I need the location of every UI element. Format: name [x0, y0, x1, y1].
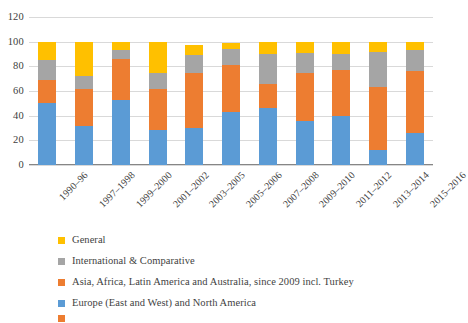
- legend-item[interactable]: International & Comparative: [58, 251, 443, 272]
- x-axis: 1990–961997–19981999–20002001–20022003–2…: [29, 166, 433, 222]
- bar-stack[interactable]: [259, 42, 277, 165]
- bar-segment[interactable]: [332, 116, 350, 165]
- bar-segment[interactable]: [296, 73, 314, 121]
- bar-segment[interactable]: [185, 128, 203, 165]
- plot-wrapper: 120100806040200 1990–961997–19981999–200…: [0, 0, 443, 170]
- legend-swatch-icon: [58, 279, 65, 286]
- legend-item[interactable]: General: [58, 230, 443, 251]
- x-tick-label: 2003–2005: [208, 170, 248, 210]
- bar-segment[interactable]: [259, 54, 277, 84]
- bar-segment[interactable]: [75, 89, 93, 126]
- bar-segment[interactable]: [149, 73, 167, 89]
- y-tick-label: 0: [19, 160, 24, 171]
- y-tick-label: 60: [13, 86, 24, 97]
- bar-segment[interactable]: [149, 130, 167, 165]
- bar-stack[interactable]: [75, 42, 93, 165]
- bar-segment[interactable]: [222, 112, 240, 165]
- x-tick-label: 1999–2000: [134, 170, 174, 210]
- bar-slot: [139, 17, 176, 165]
- bars-layer: [29, 17, 433, 165]
- bar-segment[interactable]: [369, 52, 387, 88]
- y-tick-label: 120: [8, 12, 24, 23]
- bar-segment[interactable]: [38, 42, 56, 61]
- bar-slot: [323, 17, 360, 165]
- bar-segment[interactable]: [149, 42, 167, 73]
- legend-item[interactable]: Europe (East and West) and North America: [58, 293, 443, 314]
- legend-swatch-icon: [58, 237, 65, 244]
- legend-label: Asia, Africa, Latin America and Australi…: [72, 277, 354, 288]
- bar-segment[interactable]: [222, 49, 240, 65]
- x-tick-label: 1997–1998: [98, 170, 138, 210]
- bar-slot: [360, 17, 397, 165]
- y-tick-label: 80: [13, 61, 24, 72]
- bar-segment[interactable]: [296, 42, 314, 53]
- bar-segment[interactable]: [38, 60, 56, 80]
- x-tick-label: 2009–2010: [318, 170, 358, 210]
- bar-stack[interactable]: [369, 42, 387, 165]
- bar-segment[interactable]: [75, 76, 93, 88]
- bar-stack[interactable]: [296, 42, 314, 165]
- x-tick-label: 1990–96: [58, 170, 90, 202]
- bar-segment[interactable]: [185, 55, 203, 72]
- bar-segment[interactable]: [149, 89, 167, 131]
- legend-label: General: [72, 235, 106, 246]
- x-tick-label: 2005–2006: [244, 170, 284, 210]
- bar-slot: [176, 17, 213, 165]
- bar-segment[interactable]: [332, 54, 350, 70]
- bar-segment[interactable]: [296, 53, 314, 73]
- bar-segment[interactable]: [332, 42, 350, 54]
- legend-item[interactable]: Asia, Africa, Latin America and Australi…: [58, 272, 443, 293]
- bar-segment[interactable]: [259, 42, 277, 54]
- bar-slot: [213, 17, 250, 165]
- legend-swatch-icon: [58, 258, 65, 265]
- chart-legend: GeneralInternational & ComparativeAsia, …: [58, 230, 443, 323]
- bar-stack[interactable]: [185, 45, 203, 165]
- bar-segment[interactable]: [369, 87, 387, 150]
- bar-segment[interactable]: [38, 103, 56, 165]
- legend-swatch-icon: [58, 315, 65, 322]
- bar-segment[interactable]: [259, 108, 277, 165]
- bar-segment[interactable]: [369, 42, 387, 52]
- bar-segment[interactable]: [296, 121, 314, 165]
- bar-segment[interactable]: [112, 100, 130, 165]
- y-tick-label: 20: [13, 135, 24, 146]
- bar-stack[interactable]: [332, 42, 350, 165]
- bar-slot: [102, 17, 139, 165]
- y-axis: 120100806040200: [0, 0, 27, 170]
- bar-stack[interactable]: [112, 42, 130, 165]
- bar-stack[interactable]: [149, 42, 167, 165]
- x-tick-label: 2015–2016: [428, 170, 468, 210]
- bar-slot: [286, 17, 323, 165]
- legend-label: International & Comparative: [72, 256, 195, 267]
- x-tick-label: 2007–2008: [281, 170, 321, 210]
- bar-stack[interactable]: [406, 42, 424, 165]
- bar-segment[interactable]: [406, 50, 424, 71]
- bar-segment[interactable]: [406, 133, 424, 165]
- legend-label: Europe (East and West) and North America: [72, 298, 256, 309]
- bar-segment[interactable]: [185, 73, 203, 129]
- bar-segment[interactable]: [259, 84, 277, 109]
- bar-segment[interactable]: [112, 50, 130, 59]
- bar-segment[interactable]: [332, 70, 350, 116]
- bar-segment[interactable]: [38, 80, 56, 103]
- bar-stack[interactable]: [38, 42, 56, 165]
- bar-segment[interactable]: [406, 71, 424, 133]
- y-tick-label: 100: [8, 36, 24, 47]
- bar-segment[interactable]: [112, 59, 130, 100]
- bar-segment[interactable]: [406, 42, 424, 51]
- legend-item[interactable]: [58, 314, 443, 323]
- legend-swatch-icon: [58, 300, 65, 307]
- bar-slot: [396, 17, 433, 165]
- bar-segment[interactable]: [75, 42, 93, 77]
- bar-segment[interactable]: [222, 65, 240, 112]
- bar-segment[interactable]: [369, 150, 387, 165]
- bar-segment[interactable]: [112, 42, 130, 51]
- bar-slot: [249, 17, 286, 165]
- bar-slot: [29, 17, 66, 165]
- x-tick-label: 2011–2012: [355, 170, 394, 209]
- bar-stack[interactable]: [222, 43, 240, 165]
- y-tick-label: 40: [13, 110, 24, 121]
- bar-segment[interactable]: [75, 126, 93, 165]
- bar-segment[interactable]: [185, 45, 203, 55]
